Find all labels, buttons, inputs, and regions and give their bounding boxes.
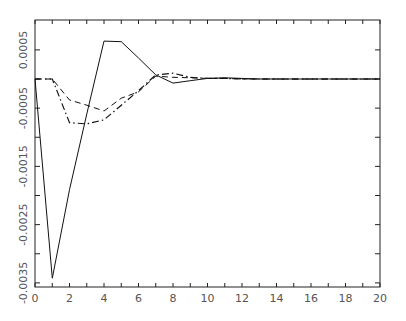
x-tick-label: 10 xyxy=(201,292,215,305)
x-tick-label: 4 xyxy=(101,292,108,305)
plot-frame xyxy=(35,20,380,287)
x-tick-label: 14 xyxy=(270,292,284,305)
y-tick-label: 0.0005 xyxy=(17,31,30,70)
series-line-dashed xyxy=(35,76,380,111)
x-tick-label: 2 xyxy=(66,292,73,305)
y-tick-label: -0.0035 xyxy=(17,262,30,304)
x-tick-label: 16 xyxy=(304,292,318,305)
series-line-solid xyxy=(35,41,380,278)
x-tick-label: 20 xyxy=(373,292,387,305)
x-tick-label: 8 xyxy=(170,292,177,305)
x-tick-label: 12 xyxy=(235,292,249,305)
x-tick-label: 6 xyxy=(135,292,142,305)
y-tick-label: -0.0025 xyxy=(17,203,30,245)
x-axis-ticks: 02468101214161820 xyxy=(32,20,388,305)
series-lines xyxy=(35,41,380,278)
line-chart: 02468101214161820 0.0005-0.0005-0.0015-0… xyxy=(0,0,406,321)
y-tick-label: -0.0005 xyxy=(17,87,30,129)
x-tick-label: 18 xyxy=(339,292,353,305)
x-tick-label: 0 xyxy=(32,292,39,305)
y-tick-label: -0.0015 xyxy=(17,145,30,187)
y-axis-ticks: 0.0005-0.0005-0.0015-0.0025-0.0035 xyxy=(17,31,380,304)
